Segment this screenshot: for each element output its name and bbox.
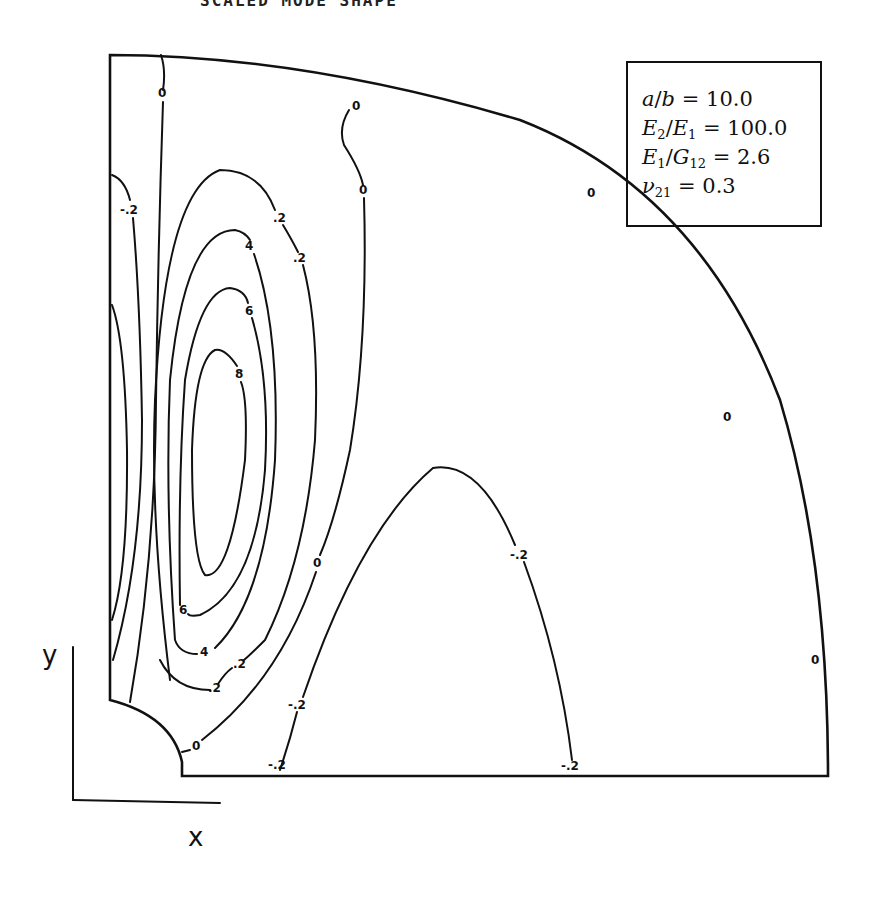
contour-label: .2 [293, 251, 306, 265]
contour-label: -.2 [120, 203, 138, 217]
contour-label: 0 [192, 739, 200, 753]
contour-label: -.2 [268, 758, 286, 772]
contour-label: -.2 [288, 698, 306, 712]
x-axis [73, 800, 220, 803]
contour-04 [168, 230, 275, 654]
contour-label: 4 [200, 645, 208, 659]
x-axis-label: x [188, 822, 203, 852]
contour-label: 6 [245, 304, 253, 318]
contour-label: 0 [352, 99, 360, 113]
contour-label: 0 [313, 556, 321, 570]
contour-label: 4 [245, 239, 253, 253]
contour-label: 0 [811, 653, 819, 667]
contour-left-lobe [112, 305, 127, 620]
y-axis-label: y [42, 640, 57, 670]
param-row-shear-ratio: E1/G12 = 2.6 [642, 143, 820, 172]
contour-label: 0 [359, 183, 367, 197]
param-row-poisson: ν21 = 0.3 [642, 172, 820, 201]
contour-label: 8 [235, 367, 243, 381]
contour-label: -.2 [510, 548, 528, 562]
contour-label: -.2 [561, 759, 579, 773]
param-row-aspect-ratio: a/b = 10.0 [642, 85, 820, 114]
contour-neg02-arch [280, 467, 572, 770]
contour-figure: SCALED MODE SHAPE [0, 0, 871, 897]
contour-label: 0 [723, 410, 731, 424]
contour-label: .2 [233, 657, 246, 671]
contour-label: 0 [158, 86, 166, 100]
contour-zero-left [130, 55, 164, 702]
contour-label: 0 [587, 186, 595, 200]
parameter-legend-box: a/b = 10.0 E2/E1 = 100.0 E1/G12 = 2.6 ν2… [626, 61, 822, 227]
contour-08 [192, 350, 246, 575]
contour-label: .2 [208, 681, 221, 695]
param-row-modulus-ratio: E2/E1 = 100.0 [642, 114, 820, 143]
contour-label: .2 [273, 211, 286, 225]
contour-label: 6 [179, 603, 187, 617]
